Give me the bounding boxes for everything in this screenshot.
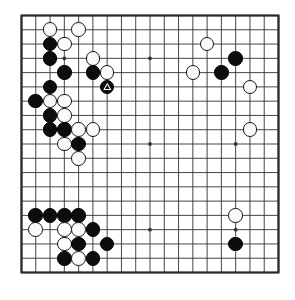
- stone-white-c5r9[interactable]: [71, 122, 86, 137]
- stone-white-c5r16[interactable]: [71, 222, 86, 237]
- stone-white-c6r9[interactable]: [86, 122, 101, 137]
- stone-black-c6r18[interactable]: [86, 251, 101, 266]
- stone-black-c4r9[interactable]: [57, 122, 72, 137]
- stone-black-c4r18[interactable]: [57, 251, 72, 266]
- stone-white-c4r3[interactable]: [57, 37, 72, 52]
- stone-white-c6r4[interactable]: [86, 51, 101, 66]
- stone-white-c16r15[interactable]: [228, 208, 243, 223]
- stone-white-c4r17[interactable]: [57, 237, 72, 252]
- stone-black-c5r15[interactable]: [71, 208, 86, 223]
- go-board-container: [0, 0, 295, 300]
- stone-white-c4r8[interactable]: [57, 108, 72, 123]
- stone-black-c3r15[interactable]: [43, 208, 58, 223]
- screenshot-root: [0, 0, 295, 300]
- stone-white-c4r7[interactable]: [57, 94, 72, 109]
- stone-black-c5r17[interactable]: [71, 237, 86, 252]
- stone-white-c5r11[interactable]: [71, 151, 86, 166]
- stone-black-c16r17[interactable]: [228, 237, 243, 252]
- stone-black-c15r5[interactable]: [214, 65, 229, 80]
- stone-white-c2r16[interactable]: [28, 222, 43, 237]
- stone-black-c4r15[interactable]: [57, 208, 72, 223]
- stone-black-c5r10[interactable]: [71, 137, 86, 152]
- stone-white-c5r2[interactable]: [71, 22, 86, 37]
- go-board[interactable]: [14, 8, 284, 279]
- stone-black-c16r4[interactable]: [228, 51, 243, 66]
- stone-white-c17r9[interactable]: [243, 122, 258, 137]
- stone-black-c2r15[interactable]: [28, 208, 43, 223]
- stone-black-c3r4[interactable]: [43, 51, 58, 66]
- stone-white-c4r16[interactable]: [57, 222, 72, 237]
- stone-white-c4r10[interactable]: [57, 137, 72, 152]
- stone-white-c5r18[interactable]: [71, 251, 86, 266]
- triangle-marker-icon: [101, 81, 114, 94]
- stone-black-c6r5[interactable]: [86, 65, 101, 80]
- stone-black-c4r5[interactable]: [57, 65, 72, 80]
- stone-black-c3r8[interactable]: [43, 108, 58, 123]
- stone-black-c6r16[interactable]: [86, 222, 101, 237]
- stone-white-c13r5[interactable]: [186, 65, 201, 80]
